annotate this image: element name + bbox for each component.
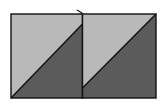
right-square [83, 14, 157, 98]
left-square [11, 14, 83, 98]
diagram-canvas [0, 0, 164, 103]
